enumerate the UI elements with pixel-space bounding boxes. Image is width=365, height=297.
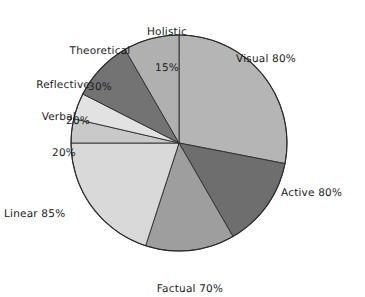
slice-label-linear-text: Linear 85% [4, 208, 94, 220]
slice-label-visual-text: Visual 80% [236, 53, 346, 65]
slice-label-holistic: Holistic 15% [133, 2, 201, 98]
slice-label-theoretical: Theoretical 30% [57, 21, 143, 117]
slice-label-active: Active 80% [281, 163, 365, 223]
slice-label-active-text: Active 80% [281, 187, 365, 199]
slice-label-holistic-name: Holistic [133, 26, 201, 38]
slice-label-visual: Visual 80% [236, 29, 346, 89]
slice-label-theoretical-name: Theoretical [57, 45, 143, 57]
slice-label-theoretical-percent: 30% [57, 81, 143, 93]
slice-label-linear: Linear 85% [4, 184, 94, 244]
slice-label-factual: Factual 70% [140, 259, 240, 297]
slice-label-holistic-percent: 15% [133, 62, 201, 74]
slice-label-factual-text: Factual 70% [140, 283, 240, 295]
